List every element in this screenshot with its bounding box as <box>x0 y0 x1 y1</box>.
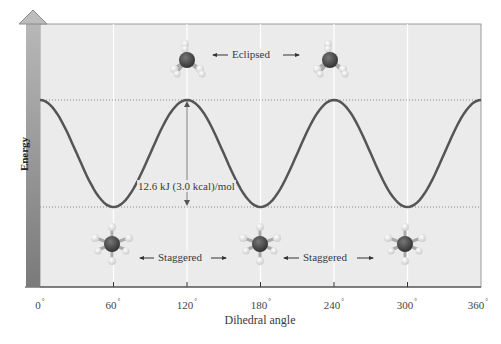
staggered-label-2: Staggered <box>301 251 349 263</box>
x-tick-0: 0° <box>35 297 44 311</box>
y-axis-label: Energy <box>18 137 30 171</box>
x-tick-120: 120° <box>177 297 197 311</box>
staggered-label-1: Staggered <box>156 251 204 263</box>
x-tick-240: 240° <box>324 297 344 311</box>
energy-barrier-label: 12.6 kJ (3.0 kcal)/mol <box>137 180 236 192</box>
x-tick-180: 180° <box>251 297 271 311</box>
x-tick-300: 300° <box>397 297 417 311</box>
x-axis-label: Dihedral angle <box>225 313 296 328</box>
x-tick-360: 360° <box>468 297 488 311</box>
x-tick-60: 60° <box>106 297 121 311</box>
eclipsed-label: Eclipsed <box>230 48 272 60</box>
